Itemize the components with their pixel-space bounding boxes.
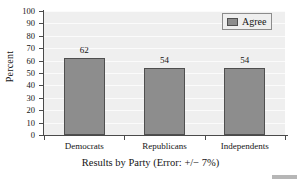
y-tick-label: 20 bbox=[9, 106, 35, 115]
x-tick-mark bbox=[124, 136, 125, 140]
y-tick-label: 50 bbox=[9, 69, 35, 78]
y-tick-label: 40 bbox=[9, 81, 35, 90]
y-tick-label: 30 bbox=[9, 94, 35, 103]
bar-value-label: 54 bbox=[225, 56, 265, 65]
y-tick-label: 90 bbox=[9, 19, 35, 28]
gridline bbox=[44, 11, 285, 12]
legend-label-agree: Agree bbox=[242, 17, 266, 27]
bar-value-label: 54 bbox=[145, 56, 185, 65]
gridline bbox=[44, 36, 285, 37]
y-tick-label: 10 bbox=[9, 119, 35, 128]
y-tick-label: 70 bbox=[9, 44, 35, 53]
y-tick-label: 100 bbox=[9, 7, 35, 16]
x-tick-mark bbox=[205, 136, 206, 140]
y-tick-label: 60 bbox=[9, 57, 35, 66]
x-tick-mark bbox=[285, 136, 286, 140]
x-category-label: Republicans bbox=[120, 141, 210, 151]
bar bbox=[224, 68, 265, 135]
y-tick-label: 80 bbox=[9, 32, 35, 41]
x-axis-title: Results by Party (Error: +/− 7%) bbox=[0, 157, 301, 169]
bar-value-label: 62 bbox=[64, 46, 104, 55]
x-category-label: Democrats bbox=[39, 141, 129, 151]
bar-chart-figure: Percent 1009080706050403020100 62Democra… bbox=[0, 0, 301, 187]
x-tick-mark bbox=[44, 136, 45, 140]
y-tick-label: 0 bbox=[9, 131, 35, 140]
legend: Agree bbox=[222, 13, 272, 30]
bar bbox=[64, 58, 105, 135]
y-axis-line bbox=[43, 10, 44, 136]
x-category-label: Independents bbox=[200, 141, 290, 151]
image-artifact-bar bbox=[272, 175, 297, 179]
bar bbox=[144, 68, 185, 135]
x-axis-line bbox=[43, 135, 288, 136]
legend-swatch-agree bbox=[227, 18, 238, 26]
